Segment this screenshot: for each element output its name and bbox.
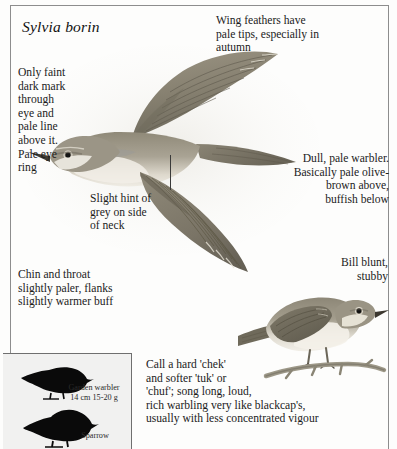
caption-neck-grey: Slight hint of grey on side of neck [90, 192, 202, 233]
caption-eye-mark: Only faint dark mark through eye and pal… [18, 66, 114, 175]
caption-call-and-song: Call a hard 'chek' and softer 'tuk' or '… [146, 358, 396, 426]
neck-leader-line [170, 155, 171, 190]
caption-dull-pale-warbler: Dull, pale warbler. Basically pale olive… [281, 152, 389, 206]
left-rule [10, 5, 11, 353]
species-name: Sylvia borin [22, 18, 100, 36]
caption-chin-throat: Chin and throat slightly paler, flanks s… [18, 268, 170, 309]
field-guide-page: Sylvia borin Only faint dark mark throug… [0, 0, 397, 449]
silhouette-label-garden-warbler: Garden warbler 14 cm 15-20 g [58, 383, 130, 403]
caption-bill: Bill blunt, stubby [300, 256, 388, 283]
silhouette-label-sparrow: Sparrow [62, 431, 128, 441]
caption-wing-feathers: Wing feathers have pale tips, especially… [216, 14, 391, 55]
top-rule [10, 5, 389, 6]
sparrow-silhouette [19, 406, 103, 449]
